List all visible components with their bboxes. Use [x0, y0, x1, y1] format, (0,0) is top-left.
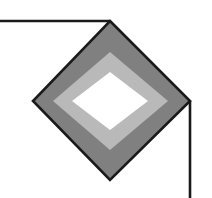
diagram-canvas — [0, 0, 212, 198]
diagram-svg — [0, 0, 212, 198]
